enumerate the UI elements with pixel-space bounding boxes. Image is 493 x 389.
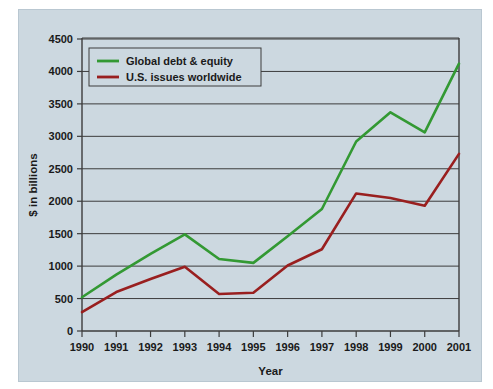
- y-tick-label: 1500: [49, 228, 73, 240]
- x-tick-label: 1998: [344, 341, 368, 353]
- chart-legend: Global debt & equityU.S. issues worldwid…: [89, 48, 261, 86]
- figure-root: 050010001500200025003000350040004500 199…: [0, 0, 493, 389]
- x-tick-marks: [82, 331, 459, 337]
- x-tick-label: 2000: [412, 341, 436, 353]
- x-tick-labels: 1990199119921993199419951996199719981999…: [70, 341, 471, 353]
- x-tick-label: 1997: [310, 341, 334, 353]
- y-tick-label: 500: [55, 293, 73, 305]
- x-tick-label: 1994: [207, 341, 232, 353]
- x-axis-title: Year: [258, 365, 283, 377]
- y-tick-label: 4000: [49, 65, 73, 77]
- x-tick-label: 2001: [447, 341, 471, 353]
- y-tick-label: 3500: [49, 98, 73, 110]
- y-tick-labels: 050010001500200025003000350040004500: [49, 33, 73, 337]
- y-tick-label: 4500: [49, 33, 73, 45]
- y-tick-label: 2500: [49, 163, 73, 175]
- x-tick-label: 1999: [378, 341, 402, 353]
- series-line-2: [82, 154, 459, 312]
- y-tick-label: 0: [67, 325, 73, 337]
- series-line-1: [82, 64, 459, 298]
- x-tick-label: 1993: [173, 341, 197, 353]
- line-chart: 050010001500200025003000350040004500 199…: [19, 10, 482, 382]
- series-lines: [82, 64, 459, 313]
- y-tick-label: 1000: [49, 260, 73, 272]
- x-tick-label: 1996: [275, 341, 299, 353]
- legend-label-1: Global debt & equity: [126, 55, 234, 67]
- x-tick-label: 1990: [70, 341, 94, 353]
- y-tick-label: 2000: [49, 195, 73, 207]
- x-tick-label: 1992: [138, 341, 162, 353]
- x-tick-label: 1995: [241, 341, 265, 353]
- y-tick-label: 3000: [49, 130, 73, 142]
- y-axis-title: $ in billions: [27, 153, 39, 216]
- x-tick-label: 1991: [104, 341, 128, 353]
- chart-panel: 050010001500200025003000350040004500 199…: [18, 9, 482, 382]
- y-tick-marks: [77, 39, 82, 331]
- legend-label-2: U.S. issues worldwide: [126, 71, 242, 83]
